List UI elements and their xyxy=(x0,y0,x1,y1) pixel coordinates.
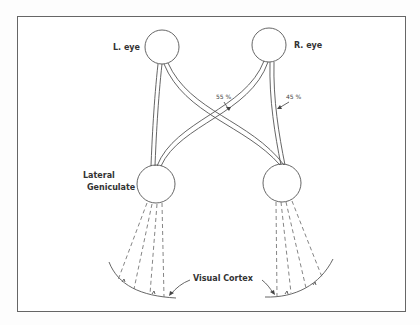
uncrossed-percent-label: 45 % xyxy=(286,93,302,100)
lateral-geniculate-label-line2: Geniculate xyxy=(87,183,136,192)
diagram-frame xyxy=(18,17,406,312)
right-eye-label: R. eye xyxy=(294,41,323,50)
crossed-percent-label: 55 % xyxy=(216,93,232,100)
left-eye-label: L. eye xyxy=(113,43,141,52)
lateral-geniculate-label-line1: Lateral xyxy=(83,171,115,180)
visual-cortex-label: Visual Cortex xyxy=(193,274,254,283)
visual-pathway-diagram: 55 % 45 % L. eye R. eye Lateral Genicula… xyxy=(0,0,420,325)
